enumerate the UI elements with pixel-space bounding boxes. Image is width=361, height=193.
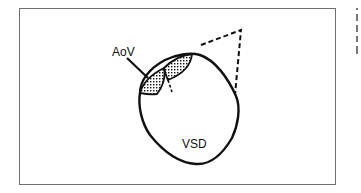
aov-label: AoV (112, 45, 135, 59)
vsd-diagram: AoV VSD (0, 0, 361, 193)
aov-pointer-arrow (127, 58, 148, 78)
valve-tick-mark (168, 80, 172, 92)
cropped-adjacent-text-fragment (356, 8, 361, 68)
dashed-projection-outline (201, 30, 241, 95)
vsd-label: VSD (182, 137, 207, 151)
